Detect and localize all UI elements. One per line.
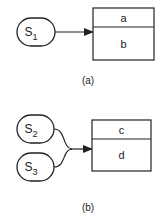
source-node-s1: S1: [17, 18, 55, 46]
source-subscript: 2: [33, 129, 38, 139]
caption-a: (a): [82, 75, 94, 86]
source-subscript: 1: [33, 32, 38, 42]
source-label: S: [24, 25, 32, 39]
record-box-b: c d: [92, 120, 151, 171]
field-c: c: [119, 124, 125, 136]
diagram-a: S1 a b (a): [17, 8, 154, 86]
source-node-s3: S3: [17, 153, 54, 181]
field-b: b: [120, 38, 126, 50]
connector-s3: [54, 149, 72, 167]
diagram-canvas: S1 a b (a) S2 S3: [0, 0, 168, 213]
field-a: a: [120, 12, 127, 24]
source-node-s2: S2: [17, 115, 54, 143]
source-label: S: [24, 122, 32, 136]
diagram-b: S2 S3 c d (b): [17, 115, 151, 213]
caption-b: (b): [82, 202, 94, 213]
source-label: S: [24, 160, 32, 174]
field-d: d: [118, 149, 124, 161]
source-subscript: 3: [33, 167, 38, 177]
record-box-a: a b: [93, 8, 154, 60]
connector-s2: [54, 129, 72, 149]
